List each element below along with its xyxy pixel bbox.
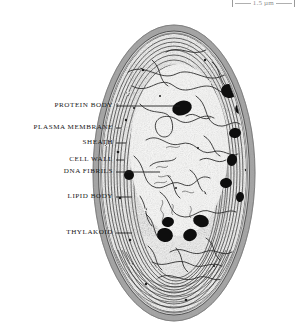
label-callouts: PROTEIN BODY PLASMA MEMBRANE SHEATH CELL…	[0, 0, 303, 332]
label-cell-wall: CELL WALL	[69, 156, 113, 163]
label-dna-fibrils: DNA FIBRILS	[64, 168, 113, 175]
label-thylakoid: THYLAKOID	[66, 229, 113, 236]
label-sheath: SHEATH	[83, 139, 114, 146]
label-protein-body: PROTEIN BODY	[55, 102, 113, 109]
micrograph-figure: 1.5 µm	[0, 0, 303, 332]
label-lipid-body: LIPID BODY	[68, 193, 114, 200]
label-plasma-membrane: PLASMA MEMBRANE	[34, 124, 113, 131]
